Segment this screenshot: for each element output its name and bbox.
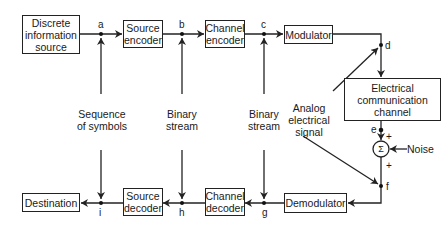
node-label-b: b: [179, 20, 185, 30]
plus-sign-bottom: +: [386, 161, 392, 171]
discrete-information-source-block: Discrete information source: [22, 15, 80, 54]
electrical-communication-channel-block: Electrical communication channel: [344, 78, 441, 121]
node-label-a: a: [98, 20, 104, 30]
demodulator-block: Demodulator: [284, 193, 347, 213]
node-label-c: c: [261, 20, 266, 30]
modulator-block: Modulator: [284, 25, 333, 44]
node-label-h: h: [179, 208, 185, 218]
destination-block: Destination: [22, 193, 80, 212]
plus-sign-top: +: [386, 132, 392, 142]
source-decoder-block: Source decoder: [123, 188, 163, 216]
analog-electrical-signal-label: Analog electrical signal: [287, 102, 331, 138]
channel-encoder-block: Channel encoder: [205, 20, 245, 48]
node-label-g: g: [262, 208, 268, 218]
node-label-f: f: [386, 182, 389, 192]
noise-label: Noise: [407, 143, 437, 155]
node-label-e: e: [371, 125, 377, 135]
source-encoder-block: Source encoder: [123, 20, 163, 48]
channel-decoder-block: Channel decoder: [205, 188, 245, 216]
sequence-of-symbols-label: Sequence of symbols: [72, 108, 132, 132]
summer-sigma-symbol: Σ: [376, 144, 386, 154]
node-label-d: d: [385, 41, 391, 51]
binary-stream-label-1: Binary stream: [163, 108, 201, 132]
binary-stream-label-2: Binary stream: [245, 108, 283, 132]
node-label-i: i: [99, 208, 101, 218]
